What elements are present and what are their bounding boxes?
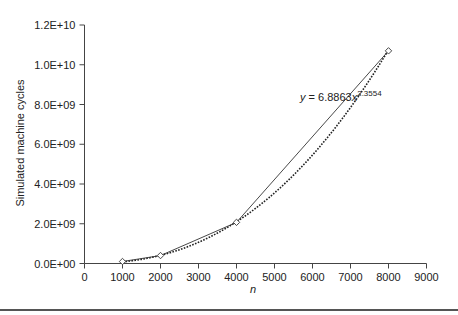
bottom-rule (0, 309, 458, 311)
x-tick-label: 2000 (148, 271, 172, 283)
data-series (119, 48, 391, 265)
x-tick-label: 8000 (376, 271, 400, 283)
y-tick-label: 1.2E+10 (34, 19, 75, 31)
x-tick-label: 0 (81, 271, 87, 283)
y-tick-label: 2.0E+09 (34, 218, 75, 230)
y-tick-label: 6.0E+09 (34, 138, 75, 150)
measured-line (123, 51, 389, 262)
x-ticks: 0100020003000400050006000700080009000 (81, 264, 438, 283)
x-tick-label: 6000 (300, 271, 324, 283)
y-axis-label: Simulated machine cycles (14, 79, 26, 207)
power-trendline (123, 50, 389, 262)
x-tick-label: 4000 (224, 271, 248, 283)
diamond-marker (157, 252, 163, 258)
x-tick-label: 7000 (338, 271, 362, 283)
axes (85, 25, 427, 264)
trendline-equation: y = 6.8863x2.3554 (299, 89, 382, 103)
trendline-exponent: 2.3554 (357, 89, 382, 98)
y-tick-label: 4.0E+09 (34, 178, 75, 190)
x-tick-label: 1000 (110, 271, 134, 283)
y-tick-label: 8.0E+09 (34, 99, 75, 111)
x-tick-label: 9000 (414, 271, 438, 283)
x-tick-label: 3000 (186, 271, 210, 283)
x-axis-label: n (250, 283, 256, 295)
y-ticks: 0.0E+002.0E+094.0E+096.0E+098.0E+091.0E+… (34, 19, 84, 270)
y-tick-label: 0.0E+00 (34, 258, 75, 270)
trendline (123, 50, 389, 262)
y-tick-label: 1.0E+10 (34, 59, 75, 71)
x-tick-label: 5000 (262, 271, 286, 283)
chart: 0.0E+002.0E+094.0E+096.0E+098.0E+091.0E+… (0, 0, 458, 315)
